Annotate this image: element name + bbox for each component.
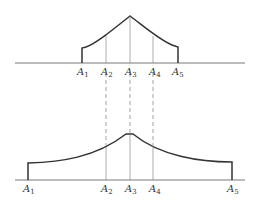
top-label-a5: A5 bbox=[172, 67, 184, 80]
top-label-a3: A3 bbox=[125, 67, 137, 80]
top-label-a1: A1 bbox=[77, 67, 89, 80]
bottom-label-a1: A1 bbox=[23, 184, 35, 197]
bottom-label-a3: A3 bbox=[125, 184, 137, 197]
bottom-label-a4: A4 bbox=[149, 184, 161, 197]
diagram-svg bbox=[0, 0, 259, 205]
diagram-figure: A1 A2 A3 A4 A5 A1 A2 A3 A4 A5 bbox=[0, 0, 259, 205]
bottom-label-a2: A2 bbox=[101, 184, 113, 197]
top-label-a4: A4 bbox=[149, 67, 161, 80]
bottom-label-a5: A5 bbox=[227, 184, 239, 197]
top-label-a2: A2 bbox=[101, 67, 113, 80]
